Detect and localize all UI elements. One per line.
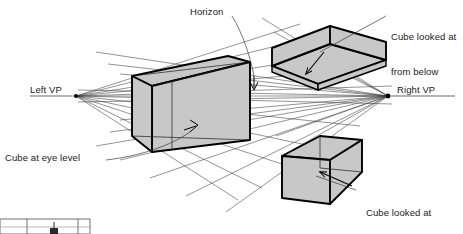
cube-above-label-line1: Cube looked at (366, 207, 431, 219)
horizon-label: Horizon (190, 6, 223, 18)
cube-looked-at-from-below-label: Cube looked at from below (391, 8, 456, 100)
cube-below-label-line2: from below (391, 66, 456, 78)
next-figure-fragment (0, 219, 90, 234)
left-vanishing-point (74, 94, 78, 98)
cube-at-eye-level (132, 56, 250, 152)
cube-below-label-line1: Cube looked at (391, 31, 456, 43)
cube-at-eye-level-label: Cube at eye level (5, 152, 80, 164)
left-vp-label: Left VP (30, 84, 62, 96)
cube-looked-at-from-below (272, 26, 386, 90)
right-vanishing-point (386, 94, 391, 99)
cube-looked-at-from-above (282, 136, 362, 204)
cube-looked-at-from-above-label: Cube looked at from above (366, 184, 431, 234)
perspective-diagram: Horizon Left VP Right VP Cube looked at … (0, 0, 463, 234)
